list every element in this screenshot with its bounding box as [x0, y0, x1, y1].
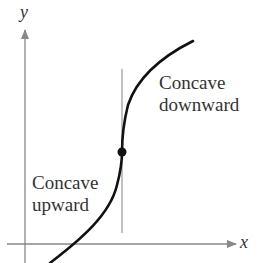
concave-downward-line2: downward — [159, 94, 239, 116]
concave-downward-label: Concave downward — [159, 72, 239, 116]
concave-upward-line1: Concave — [32, 172, 98, 194]
y-axis-label: y — [20, 2, 28, 23]
concavity-diagram: y x Concave downward Concave upward — [0, 0, 260, 263]
x-axis-label: x — [240, 232, 248, 253]
concave-downward-line1: Concave — [159, 72, 239, 94]
concave-upward-line2: upward — [32, 194, 98, 216]
concave-upward-label: Concave upward — [32, 172, 98, 216]
inflection-point-dot — [118, 148, 127, 157]
diagram-graphics — [0, 0, 260, 263]
